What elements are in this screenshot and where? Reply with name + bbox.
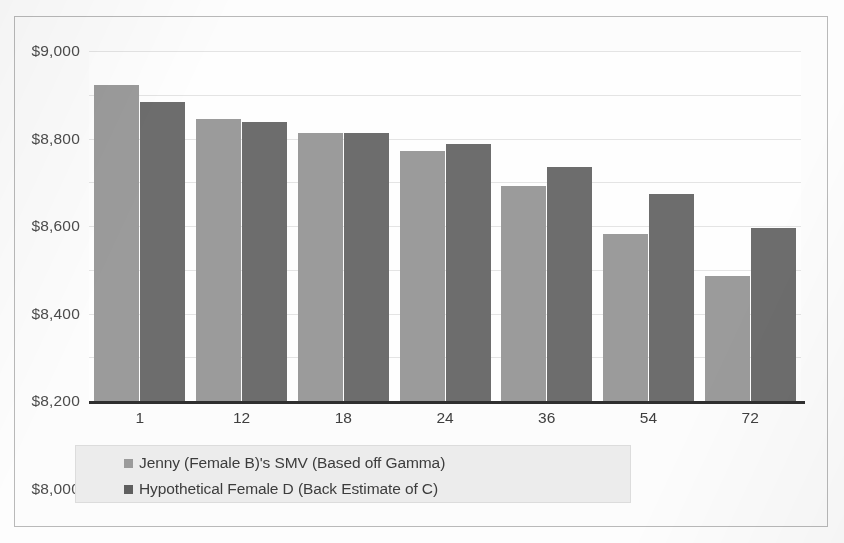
bar-group: [501, 51, 592, 401]
plot-area: $9,000$8,800$8,600$8,400$8,200$8,000$7,8…: [89, 51, 801, 401]
chart-page: $9,000$8,800$8,600$8,400$8,200$8,000$7,8…: [0, 0, 844, 543]
x-axis-tick-label-12: 12: [233, 409, 250, 427]
bar-series-0-category-1[interactable]: [94, 85, 139, 401]
bar-series-0-category-36[interactable]: [501, 186, 546, 401]
x-axis-tick-label-18: 18: [335, 409, 352, 427]
bar-series-1-category-54[interactable]: [649, 194, 694, 401]
bar-group: [400, 51, 491, 401]
x-axis-line: [89, 401, 805, 404]
bar-series-1-category-36[interactable]: [547, 167, 592, 401]
legend-item-series-0[interactable]: Jenny (Female B)'s SMV (Based off Gamma): [124, 451, 630, 475]
bar-series-1-category-24[interactable]: [446, 144, 491, 401]
bar-series-1-category-1[interactable]: [140, 102, 185, 401]
legend-label-series-0: Jenny (Female B)'s SMV (Based off Gamma): [139, 454, 445, 472]
bar-series-0-category-12[interactable]: [196, 119, 241, 401]
x-axis-tick-label-36: 36: [538, 409, 555, 427]
chart-legend[interactable]: Jenny (Female B)'s SMV (Based off Gamma)…: [75, 445, 631, 503]
bar-group: [94, 51, 185, 401]
bar-group: [603, 51, 694, 401]
bar-series-0-category-24[interactable]: [400, 151, 445, 401]
x-axis-tick-label-72: 72: [742, 409, 759, 427]
bar-series-0-category-54[interactable]: [603, 234, 648, 401]
y-axis-tick-label: $8,200: [31, 392, 80, 410]
y-axis-tick-label: $8,800: [31, 130, 80, 148]
bar-group: [298, 51, 389, 401]
x-axis-tick-label-1: 1: [136, 409, 145, 427]
legend-swatch-icon-series-0: [124, 459, 133, 468]
bar-group: [196, 51, 287, 401]
legend-item-series-1[interactable]: Hypothetical Female D (Back Estimate of …: [124, 477, 630, 501]
bar-group: [705, 51, 796, 401]
x-axis-tick-label-54: 54: [640, 409, 657, 427]
bar-series-1-category-18[interactable]: [344, 133, 389, 401]
y-axis-tick-label: $8,600: [31, 217, 80, 235]
x-axis-tick-label-24: 24: [436, 409, 453, 427]
y-axis-tick-label: $9,000: [31, 42, 80, 60]
bars-layer: [89, 51, 801, 401]
bar-series-1-category-12[interactable]: [242, 122, 287, 401]
legend-label-series-1: Hypothetical Female D (Back Estimate of …: [139, 480, 438, 498]
y-axis-tick-label: $8,400: [31, 305, 80, 323]
bar-series-1-category-72[interactable]: [751, 228, 796, 401]
bar-series-0-category-18[interactable]: [298, 133, 343, 401]
bar-series-0-category-72[interactable]: [705, 276, 750, 401]
legend-swatch-icon-series-1: [124, 485, 133, 494]
chart-frame: $9,000$8,800$8,600$8,400$8,200$8,000$7,8…: [14, 16, 828, 527]
chart-plot-container: $9,000$8,800$8,600$8,400$8,200$8,000$7,8…: [15, 17, 827, 526]
y-axis-tick-label: $8,000: [31, 480, 80, 498]
